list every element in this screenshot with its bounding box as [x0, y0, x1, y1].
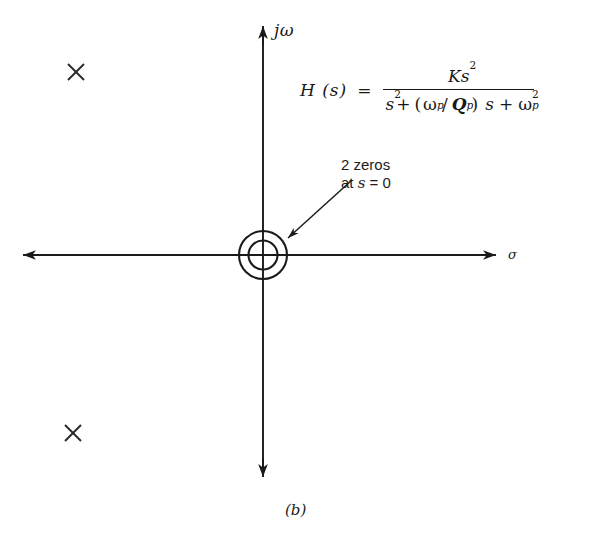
denominator-s-linear: s — [480, 94, 494, 114]
denominator-open-paren: ( — [412, 94, 423, 114]
denominator-s-squared: s2 — [385, 94, 394, 114]
equation-fraction: Ks2 s2+(ωp/Qp)s+ω2p — [383, 66, 534, 114]
denominator-omega-2-exponent: 2 — [532, 88, 539, 100]
denominator-s-exponent: 2 — [394, 88, 401, 100]
denominator-q-subscript: p — [467, 99, 474, 111]
pole-marker-upper — [68, 64, 84, 80]
equation-equals-sign: = — [357, 80, 371, 100]
numerator-s: s — [461, 66, 470, 86]
imaginary-axis-label: jω — [274, 22, 294, 39]
numerator-gain: K — [448, 66, 461, 86]
figure-caption: (b) — [285, 503, 306, 518]
zeros-annotation-value: = 0 — [365, 174, 390, 191]
equation-lhs: H (s) — [300, 80, 347, 100]
equation-denominator: s2+(ωp/Qp)s+ω2p — [383, 90, 534, 114]
denominator-omega-2: ω — [518, 94, 532, 114]
denominator-omega-p: ωp — [423, 94, 437, 114]
real-axis-label: σ — [508, 248, 517, 261]
equation-numerator: Ks2 — [383, 66, 534, 89]
denominator-omega-p-squared: ω2p — [518, 94, 532, 114]
denominator-omega-2-subscript: p — [532, 99, 539, 111]
denominator-s: s — [385, 94, 394, 114]
pole-marker-lower — [65, 425, 81, 441]
denominator-plus-2: + — [494, 94, 518, 114]
zeros-annotation: 2 zeros at s = 0 — [341, 156, 391, 193]
zeros-annotation-at: at — [341, 174, 358, 191]
numerator-s-exponent: 2 — [469, 59, 476, 71]
zeros-annotation-line-1: 2 zeros — [341, 156, 391, 174]
denominator-q-p: Qp — [452, 94, 467, 114]
denominator-omega-subscript: p — [437, 99, 444, 111]
zeros-annotation-line-2: at s = 0 — [341, 174, 391, 192]
numerator-s-squared: s2 — [461, 66, 470, 86]
denominator-q: Q — [452, 94, 467, 114]
denominator-omega: ω — [423, 94, 437, 114]
figure-pole-zero-plot: jω σ 2 zeros at s = 0 H (s) = Ks2 s2+(ωp… — [0, 0, 610, 535]
transfer-function-equation: H (s) = Ks2 s2+(ωp/Qp)s+ω2p — [300, 66, 534, 114]
